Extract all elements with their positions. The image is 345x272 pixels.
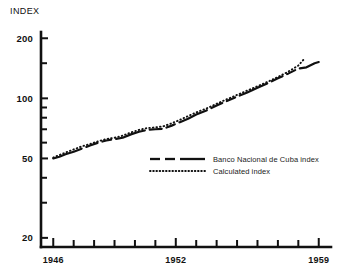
y-tick-label-200: 200: [17, 33, 33, 44]
y-tick-label-100: 100: [17, 93, 33, 104]
legend-label-banco-nacional: Banco Nacional de Cuba index: [213, 155, 319, 164]
x-tick-label-1952: 1952: [165, 255, 186, 265]
chart-container: INDEX 2001005020 194619521959 Banco Naci…: [0, 0, 345, 272]
legend-label-calculated-index: Calculated index: [213, 167, 270, 176]
axes: [41, 32, 331, 247]
y-tick-label-50: 50: [22, 153, 33, 164]
x-axis-tick-labels: 194619521959: [43, 255, 329, 265]
y-tick-label-20: 20: [22, 232, 33, 243]
x-tick-label-1959: 1959: [308, 255, 329, 265]
chart-legend: Banco Nacional de Cuba index Calculated …: [150, 155, 319, 176]
y-axis-tick-labels: 2001005020: [17, 33, 33, 244]
y-axis-title: INDEX: [10, 6, 40, 16]
series-line-calculated-index: [53, 59, 304, 158]
index-line-chart: INDEX 2001005020 194619521959 Banco Naci…: [0, 0, 345, 272]
x-tick-label-1946: 1946: [43, 255, 64, 265]
data-series-group: [53, 59, 319, 159]
x-axis-ticks: [53, 238, 318, 247]
